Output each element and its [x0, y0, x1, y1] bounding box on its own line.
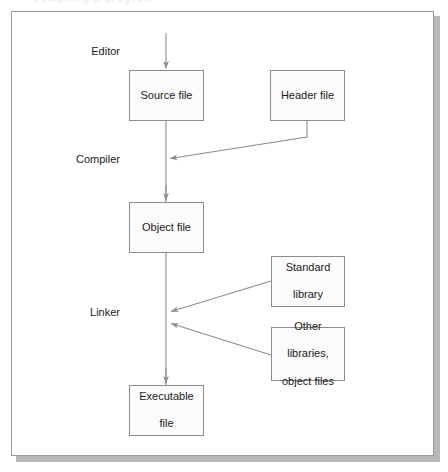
stage-label-compiler: Compiler [50, 153, 120, 165]
connector-standard-library-to-linker [171, 281, 271, 312]
connector-header-to-compiler [170, 121, 307, 159]
node-source-file: Source file [129, 70, 204, 121]
node-header-file-label: Header file [278, 89, 337, 103]
node-other-libraries-label: Other libraries, object files [276, 320, 340, 389]
stage-label-linker: Linker [55, 306, 120, 318]
node-other-libraries-line-2: libraries, [279, 347, 337, 361]
stage-label-editor: Editor [60, 45, 120, 57]
node-standard-library-line-2: library [283, 288, 334, 302]
node-source-file-label: Source file [138, 89, 196, 103]
node-executable-file-line-1: Executable [136, 390, 196, 404]
node-executable-file-line-2: file [136, 417, 196, 431]
figure-root: compiling a program [0, 0, 448, 472]
node-executable-file: Executable file [129, 385, 204, 436]
connector-other-libraries-to-linker [171, 324, 271, 356]
node-header-file: Header file [270, 70, 345, 121]
node-other-libraries-line-1: Other [279, 320, 337, 334]
stage-label-linker-text: Linker [90, 306, 120, 318]
stage-label-compiler-text: Compiler [76, 153, 120, 165]
node-other-libraries-line-3: object files [279, 375, 337, 389]
node-standard-library-line-1: Standard [283, 261, 334, 275]
node-object-file: Object file [129, 202, 204, 253]
node-object-file-label: Object file [139, 221, 194, 235]
node-executable-file-label: Executable file [133, 390, 199, 431]
node-other-libraries: Other libraries, object files [271, 327, 345, 381]
connector-layer [0, 0, 448, 472]
stage-label-editor-text: Editor [91, 45, 120, 57]
node-standard-library-label: Standard library [280, 261, 337, 302]
node-standard-library: Standard library [271, 256, 345, 307]
